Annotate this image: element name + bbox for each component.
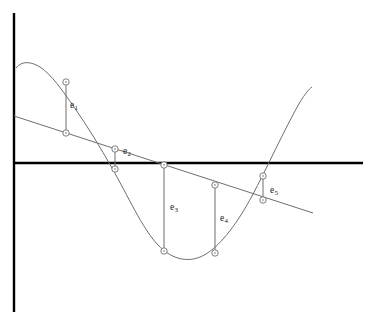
residual-segments-group — [63, 79, 266, 256]
residual-label-e2: e2 — [123, 147, 131, 158]
residual-label-subscript-e3: 3 — [174, 206, 178, 214]
residual-label-subscript-e5: 5 — [274, 189, 278, 197]
data-point-dot-e2-line — [114, 148, 116, 150]
residual-label-subscript-e1: 1 — [74, 104, 78, 112]
data-point-dot-e4-curve — [214, 252, 216, 254]
residuals-figure: e1e2e3e4e5 — [0, 0, 373, 332]
residual-label-e1: e1 — [70, 101, 78, 112]
data-point-dot-e3-line — [163, 164, 165, 166]
data-point-dot-e3-curve — [163, 250, 165, 252]
data-point-dot-e1-curve — [65, 81, 67, 83]
plot-canvas — [0, 0, 373, 332]
residual-label-e3: e3 — [170, 203, 178, 214]
data-point-dot-e5-line — [262, 199, 264, 201]
axes-group — [14, 13, 363, 312]
residual-label-subscript-e2: 2 — [127, 150, 131, 158]
data-point-dot-e4-line — [214, 184, 216, 186]
data-point-dot-e5-curve — [262, 175, 264, 177]
residual-label-subscript-e4: 4 — [224, 217, 228, 225]
data-point-dot-e1-line — [65, 132, 67, 134]
residual-label-e5: e5 — [270, 186, 278, 197]
data-point-dot-e2-curve — [114, 168, 116, 170]
residual-label-e4: e4 — [220, 214, 228, 225]
